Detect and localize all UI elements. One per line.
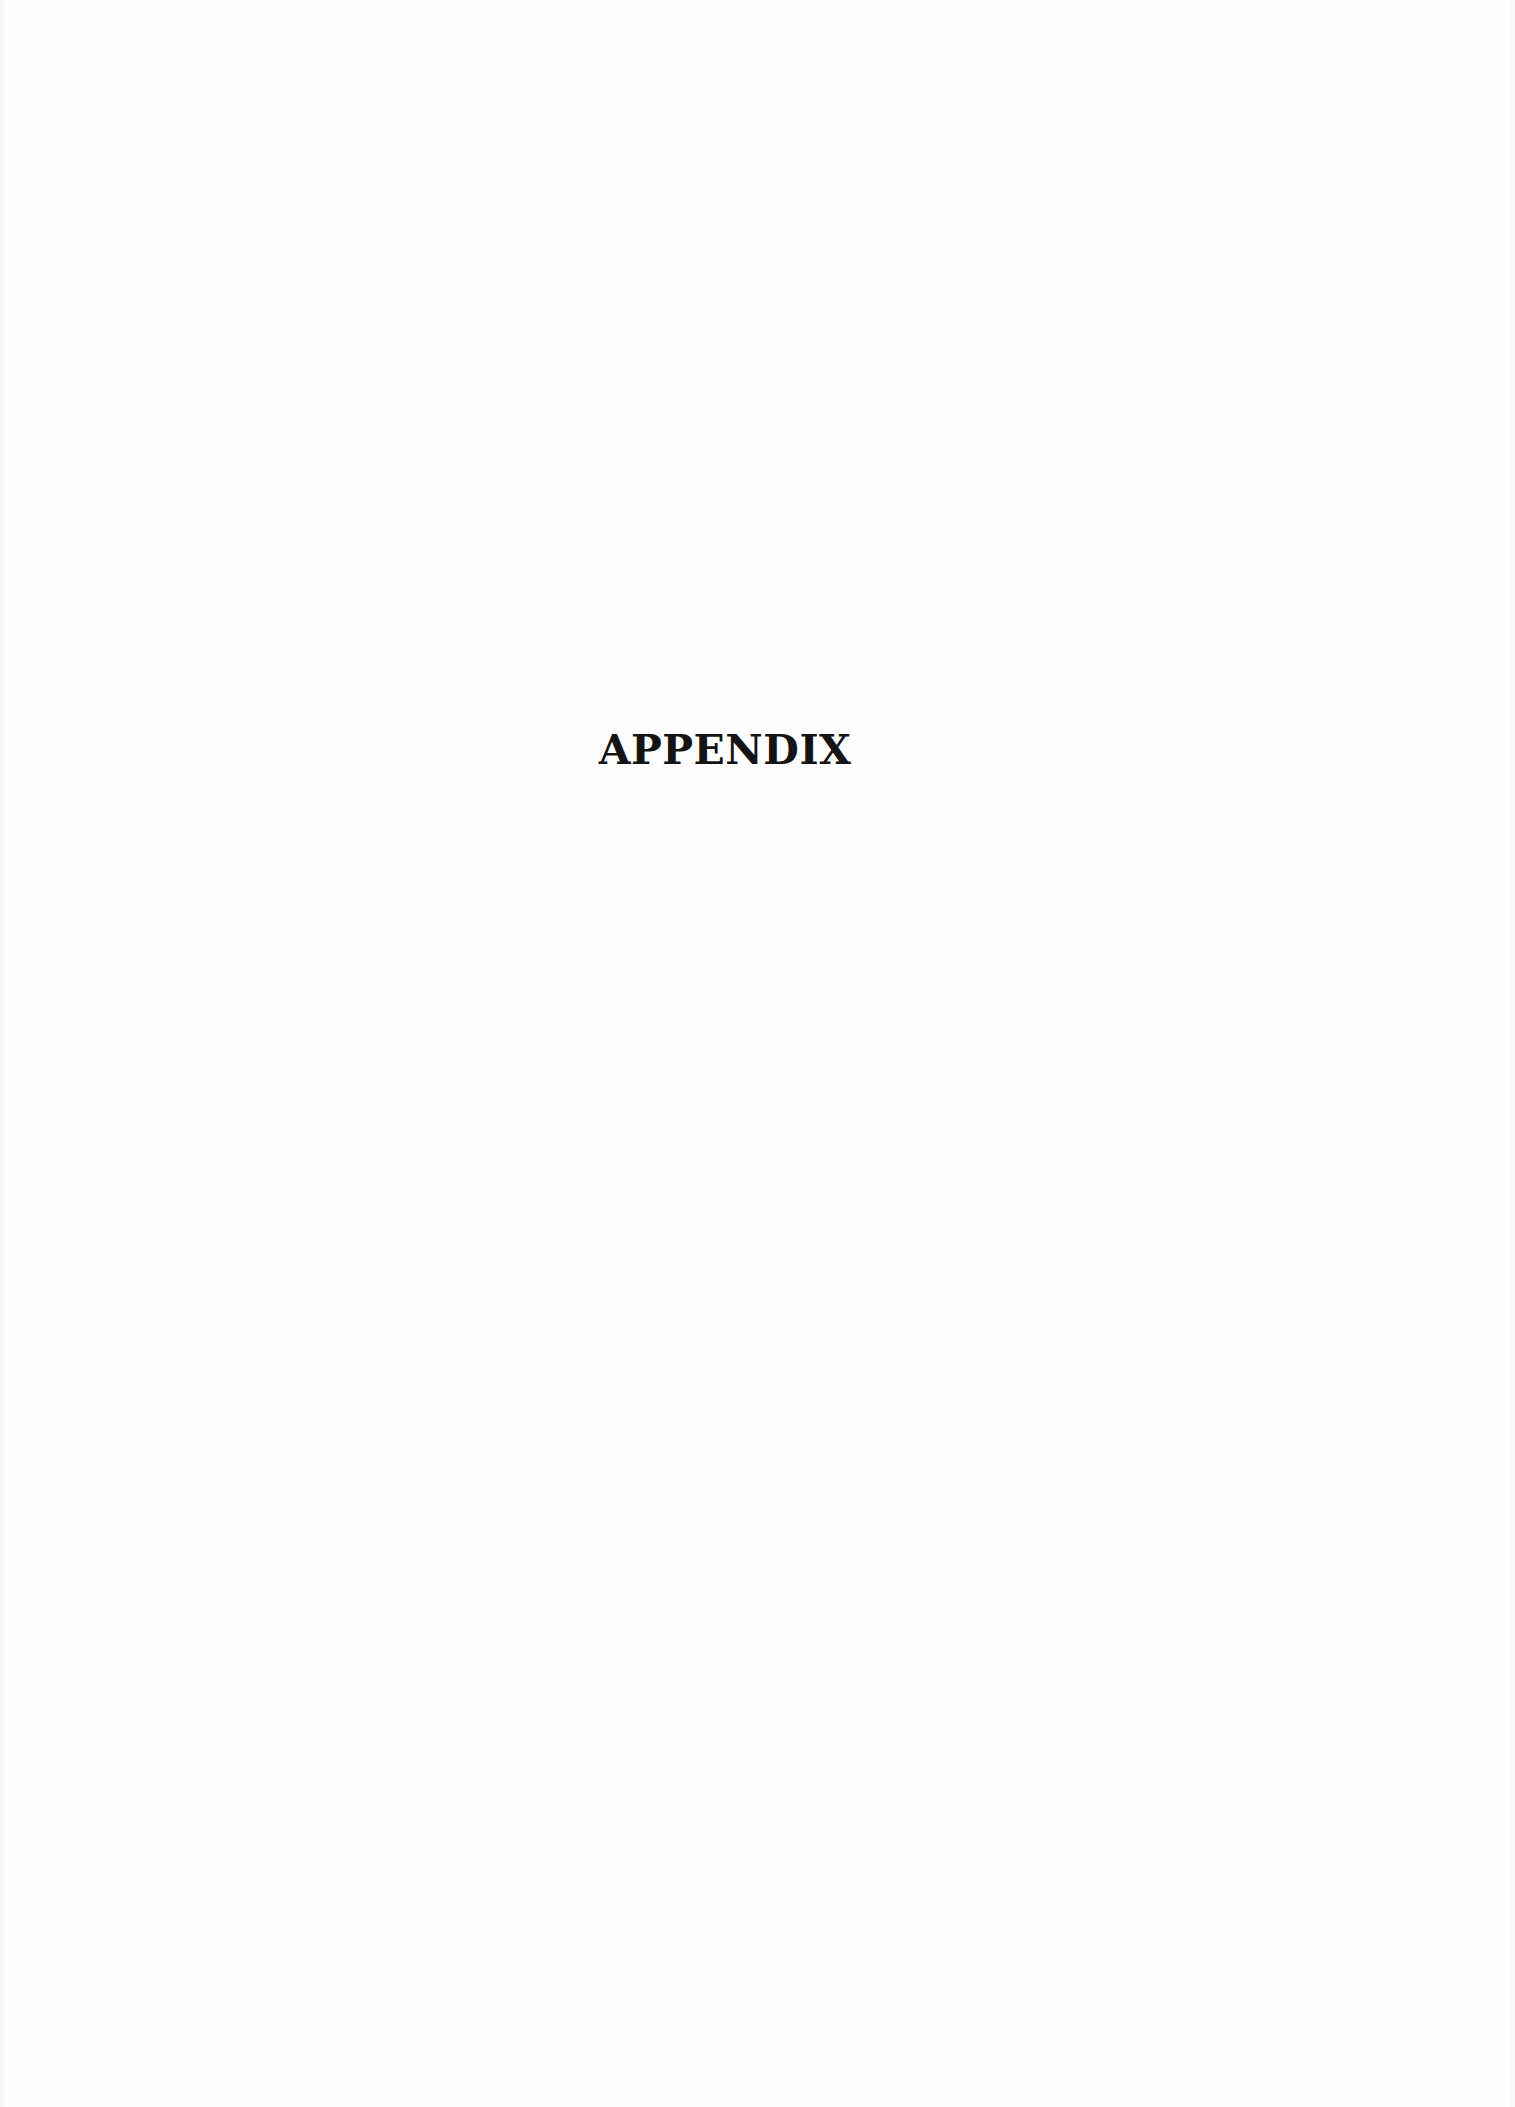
document-page: APPENDIX <box>0 0 1515 2107</box>
appendix-heading: APPENDIX <box>583 722 867 778</box>
page-edge-right <box>1509 0 1515 2107</box>
page-edge-left <box>0 0 6 2107</box>
